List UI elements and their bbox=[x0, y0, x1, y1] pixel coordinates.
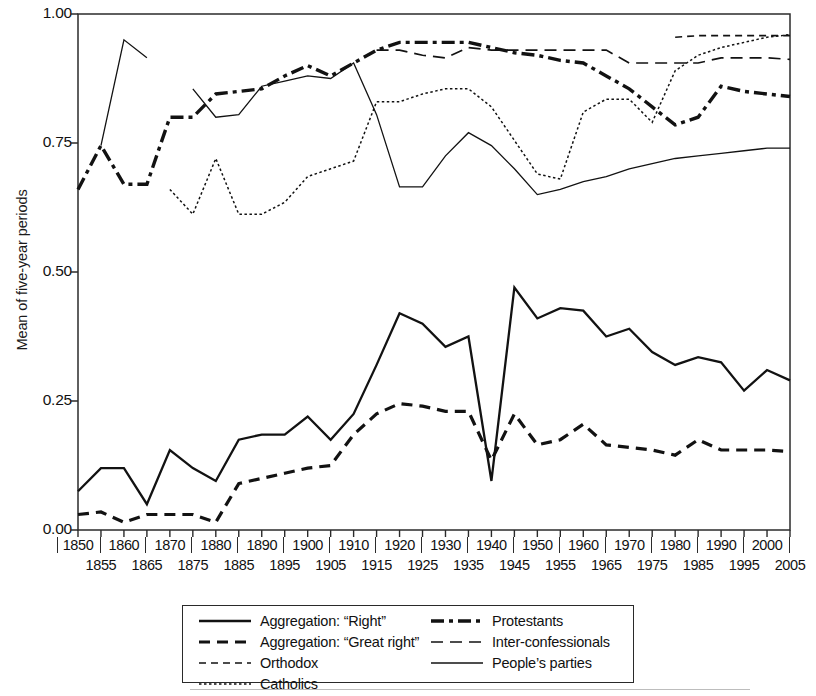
legend-item-label: Orthodox bbox=[260, 655, 318, 671]
x-label-separator bbox=[559, 537, 560, 553]
x-label-separator bbox=[605, 537, 606, 553]
x-tick-label-upper: 1940 bbox=[476, 537, 507, 553]
chart-legend: Aggregation: “Right”Aggregation: “Great … bbox=[182, 605, 634, 683]
x-tick-label-upper: 1990 bbox=[706, 537, 737, 553]
legend-key-peoples-parties bbox=[429, 656, 485, 670]
x-tick-label-lower: 1855 bbox=[86, 557, 117, 573]
series-line-inter-confessionals bbox=[377, 48, 790, 63]
x-label-separator bbox=[145, 537, 146, 553]
x-label-separator bbox=[100, 537, 101, 553]
x-tick-label-lower: 1985 bbox=[683, 557, 714, 573]
x-tick-label-lower: 1915 bbox=[361, 557, 392, 573]
chart-figure: Mean of five-year periods 0.000.250.500.… bbox=[0, 0, 816, 696]
legend-item[interactable]: Aggregation: “Right” bbox=[197, 610, 419, 631]
x-label-separator bbox=[421, 537, 422, 553]
legend-key-orthodox bbox=[197, 656, 253, 670]
legend-item[interactable]: People’s parties bbox=[429, 652, 610, 673]
plot-frame bbox=[78, 14, 790, 530]
x-tick-label-upper: 1950 bbox=[522, 537, 553, 553]
page-footer-rule bbox=[190, 689, 750, 690]
legend-item[interactable]: Protestants bbox=[429, 610, 610, 631]
x-label-separator bbox=[789, 537, 790, 553]
x-tick-label-lower: 1895 bbox=[269, 557, 300, 573]
legend-column-right: ProtestantsInter-confessionalsPeople’s p… bbox=[429, 610, 610, 673]
x-label-separator bbox=[697, 537, 698, 553]
legend-item[interactable]: Aggregation: “Great right” bbox=[197, 631, 419, 652]
x-tick-label-upper: 1970 bbox=[614, 537, 645, 553]
x-tick-label-upper: 2000 bbox=[752, 537, 783, 553]
x-label-separator bbox=[329, 537, 330, 553]
legend-item[interactable]: Catholics bbox=[197, 673, 419, 694]
x-tick-label-upper: 1860 bbox=[109, 537, 140, 553]
legend-key-inter-confessionals bbox=[429, 635, 485, 649]
series-line-catholics bbox=[170, 35, 790, 215]
legend-item-label: Inter-confessionals bbox=[492, 634, 610, 650]
x-tick-label-lower: 1975 bbox=[637, 557, 668, 573]
legend-column-left: Aggregation: “Right”Aggregation: “Great … bbox=[197, 610, 419, 694]
x-label-separator bbox=[237, 537, 238, 553]
x-tick-label-upper: 1880 bbox=[200, 537, 231, 553]
x-label-separator bbox=[57, 537, 58, 553]
x-tick-label-lower: 1935 bbox=[453, 557, 484, 573]
x-tick-label-upper: 1870 bbox=[155, 537, 186, 553]
x-tick-label-lower: 1995 bbox=[729, 557, 760, 573]
series-line-aggregation-right bbox=[78, 287, 790, 504]
x-tick-label-lower: 1965 bbox=[591, 557, 622, 573]
x-tick-label-lower: 1875 bbox=[177, 557, 208, 573]
legend-item-label: Aggregation: “Great right” bbox=[260, 634, 419, 650]
x-tick-label-lower: 2005 bbox=[775, 557, 806, 573]
legend-item-label: Aggregation: “Right” bbox=[260, 613, 386, 629]
x-tick-label-upper: 1960 bbox=[568, 537, 599, 553]
x-tick-label-upper: 1920 bbox=[384, 537, 415, 553]
x-tick-label-upper: 1910 bbox=[338, 537, 369, 553]
x-tick-label-upper: 1900 bbox=[292, 537, 323, 553]
x-tick-label-lower: 1865 bbox=[132, 557, 163, 573]
legend-key-protestants bbox=[429, 614, 485, 628]
legend-key-aggregation-right bbox=[197, 614, 253, 628]
legend-item-label: People’s parties bbox=[492, 655, 592, 671]
x-tick-label-upper: 1930 bbox=[430, 537, 461, 553]
legend-item-label: Protestants bbox=[492, 613, 563, 629]
x-label-separator bbox=[375, 537, 376, 553]
legend-item[interactable]: Orthodox bbox=[197, 652, 419, 673]
plot-area bbox=[0, 0, 816, 540]
x-label-separator bbox=[467, 537, 468, 553]
x-tick-label-lower: 1955 bbox=[545, 557, 576, 573]
x-label-separator bbox=[743, 537, 744, 553]
x-label-separator bbox=[651, 537, 652, 553]
x-tick-label-lower: 1885 bbox=[223, 557, 254, 573]
x-label-separator bbox=[191, 537, 192, 553]
x-tick-label-lower: 1905 bbox=[315, 557, 346, 573]
x-tick-label-lower: 1945 bbox=[499, 557, 530, 573]
x-label-separator bbox=[283, 537, 284, 553]
x-tick-label-upper: 1890 bbox=[246, 537, 277, 553]
legend-key-aggregation-great-right bbox=[197, 635, 253, 649]
x-tick-label-lower: 1925 bbox=[407, 557, 438, 573]
x-label-separator bbox=[513, 537, 514, 553]
legend-item[interactable]: Inter-confessionals bbox=[429, 631, 610, 652]
x-tick-label-upper: 1850 bbox=[63, 537, 94, 553]
x-tick-label-upper: 1980 bbox=[660, 537, 691, 553]
